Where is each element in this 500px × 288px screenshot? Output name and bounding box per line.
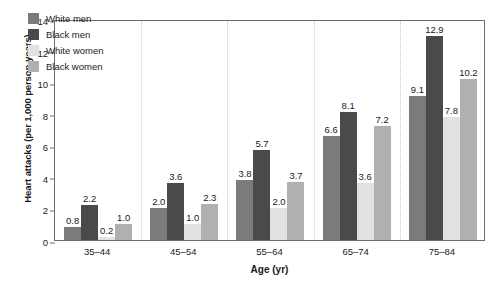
bar-value-label: 10.2 bbox=[458, 67, 479, 78]
x-axis-tick: 65–74 bbox=[342, 246, 368, 257]
bar[interactable]: 2.0 bbox=[270, 21, 287, 240]
bar[interactable]: 2.0 bbox=[150, 21, 167, 240]
bar-rect bbox=[323, 136, 340, 240]
bar[interactable]: 12.9 bbox=[426, 21, 443, 240]
legend-swatch-icon bbox=[28, 61, 39, 72]
bar[interactable]: 5.7 bbox=[253, 21, 270, 240]
bar-rect bbox=[443, 117, 460, 240]
bar[interactable]: 8.1 bbox=[340, 21, 357, 240]
bar-value-label: 3.8 bbox=[237, 168, 252, 179]
y-axis-tick: 6 bbox=[43, 142, 55, 153]
bar[interactable]: 2.3 bbox=[201, 21, 218, 240]
y-axis-tick: 0 bbox=[43, 237, 55, 248]
bar-value-label: 7.2 bbox=[375, 114, 390, 125]
bar-value-label: 6.6 bbox=[324, 124, 339, 135]
bar-rect bbox=[98, 237, 115, 240]
legend-item: Black men bbox=[28, 26, 104, 42]
bar-rect bbox=[409, 96, 426, 240]
y-axis-tick: 10 bbox=[37, 79, 55, 90]
y-axis-tick: 2 bbox=[43, 205, 55, 216]
bar[interactable]: 3.8 bbox=[236, 21, 253, 240]
bar-group: 9.112.97.810.2 bbox=[400, 21, 486, 240]
bar-value-label: 3.6 bbox=[358, 171, 373, 182]
bar[interactable]: 3.7 bbox=[287, 21, 304, 240]
bar-group: 2.03.61.02.3 bbox=[141, 21, 227, 240]
bar[interactable]: 1.0 bbox=[115, 21, 132, 240]
bar-rect bbox=[426, 36, 443, 240]
bar-rect bbox=[253, 150, 270, 240]
bar-value-label: 9.1 bbox=[410, 84, 425, 95]
legend-swatch-icon bbox=[28, 45, 39, 56]
legend-label: White men bbox=[46, 13, 91, 24]
chart-figure: Heart attacks (per 1,000 person-years) 0… bbox=[0, 0, 500, 288]
bar-value-label: 5.7 bbox=[254, 138, 269, 149]
legend-swatch-icon bbox=[28, 13, 39, 24]
bar-rect bbox=[150, 208, 167, 240]
x-axis-tick: 35–44 bbox=[84, 246, 110, 257]
bar-rect bbox=[81, 205, 98, 240]
bar-value-label: 1.0 bbox=[116, 212, 131, 223]
bar-value-label: 3.6 bbox=[168, 171, 183, 182]
bar[interactable]: 3.6 bbox=[167, 21, 184, 240]
bar-rect bbox=[340, 112, 357, 240]
legend-item: White men bbox=[28, 10, 104, 26]
bar-value-label: 3.7 bbox=[288, 170, 303, 181]
bar[interactable]: 6.6 bbox=[323, 21, 340, 240]
bar-rect bbox=[374, 126, 391, 240]
bar[interactable]: 9.1 bbox=[409, 21, 426, 240]
bar[interactable]: 3.6 bbox=[357, 21, 374, 240]
bar-rect bbox=[115, 224, 132, 240]
bar-value-label: 2.0 bbox=[151, 196, 166, 207]
bar[interactable]: 7.2 bbox=[374, 21, 391, 240]
bar-value-label: 0.8 bbox=[65, 215, 80, 226]
bar-rect bbox=[184, 224, 201, 240]
bar[interactable]: 7.8 bbox=[443, 21, 460, 240]
bar-rect bbox=[167, 183, 184, 240]
legend-item: Black women bbox=[28, 58, 104, 74]
bar[interactable]: 1.0 bbox=[184, 21, 201, 240]
bar-value-label: 1.0 bbox=[185, 212, 200, 223]
x-axis-title: Age (yr) bbox=[54, 264, 485, 275]
bar-value-label: 0.2 bbox=[99, 225, 114, 236]
bar[interactable]: 10.2 bbox=[460, 21, 477, 240]
legend-item: White women bbox=[28, 42, 104, 58]
bar-group: 6.68.13.67.2 bbox=[314, 21, 400, 240]
legend-swatch-icon bbox=[28, 29, 39, 40]
y-axis-tick: 4 bbox=[43, 173, 55, 184]
bar-rect bbox=[201, 204, 218, 240]
y-axis-tick: 8 bbox=[43, 110, 55, 121]
bar-rect bbox=[236, 180, 253, 240]
bar-rect bbox=[357, 183, 374, 240]
bar-rect bbox=[270, 208, 287, 240]
bar-value-label: 7.8 bbox=[444, 105, 459, 116]
bar-rect bbox=[460, 79, 477, 240]
legend-label: Black women bbox=[46, 61, 103, 72]
x-axis-tick: 45–54 bbox=[170, 246, 196, 257]
bar-value-label: 2.0 bbox=[271, 196, 286, 207]
chart-legend: White menBlack menWhite womenBlack women bbox=[28, 10, 104, 74]
legend-label: White women bbox=[46, 45, 104, 56]
x-axis-tick: 75–84 bbox=[429, 246, 455, 257]
x-axis-tick: 55–64 bbox=[256, 246, 282, 257]
bar-value-label: 12.9 bbox=[424, 24, 445, 35]
bar-value-label: 8.1 bbox=[341, 100, 356, 111]
bar-value-label: 2.2 bbox=[82, 193, 97, 204]
bar-value-label: 2.3 bbox=[202, 192, 217, 203]
bar-group: 3.85.72.03.7 bbox=[227, 21, 313, 240]
legend-label: Black men bbox=[46, 29, 90, 40]
plot-area: 024681012140.82.20.21.02.03.61.02.33.85.… bbox=[54, 20, 485, 241]
bar-rect bbox=[64, 227, 81, 240]
bar-rect bbox=[287, 182, 304, 240]
